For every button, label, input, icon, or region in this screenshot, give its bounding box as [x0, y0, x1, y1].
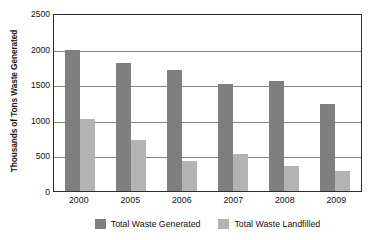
legend-swatch-icon: [95, 219, 106, 229]
bar-chart: Thousands of Tons Waste Generated 2500 2…: [0, 0, 378, 240]
bar-generated-2009: [320, 104, 335, 191]
legend-entry-generated: Total Waste Generated: [95, 219, 201, 229]
y-axis-tick-labels: 2500 2000 1500 1000 500 0: [17, 14, 50, 192]
bar-group-2009: [310, 15, 361, 191]
bar-landfilled-2009: [335, 171, 350, 191]
y-tick-label-2500: 2500: [17, 10, 50, 19]
bar-landfilled-2007: [233, 154, 248, 191]
y-tick-label-1000: 1000: [17, 116, 50, 125]
x-tick-label-2008: 2008: [259, 195, 311, 205]
x-tick-label-2007: 2007: [208, 195, 260, 205]
bar-generated-2000: [65, 50, 80, 191]
x-tick-label-2005: 2005: [105, 195, 157, 205]
x-tick-label-2000: 2000: [53, 195, 105, 205]
bar-landfilled-2005: [131, 140, 146, 191]
y-tick-label-1500: 1500: [17, 81, 50, 90]
bar-landfilled-2008: [284, 166, 299, 191]
bar-generated-2007: [218, 84, 233, 191]
legend-swatch-icon: [218, 219, 229, 229]
bar-group-2005: [105, 15, 156, 191]
bar-landfilled-2000: [80, 119, 95, 191]
legend-label-landfilled: Total Waste Landfilled: [234, 219, 320, 229]
bar-group-2000: [54, 15, 105, 191]
chart-legend: Total Waste Generated Total Waste Landfi…: [53, 219, 362, 229]
x-axis-tick-labels: 2000 2005 2006 2007 2008 2009: [53, 195, 362, 205]
legend-label-generated: Total Waste Generated: [111, 219, 201, 229]
bar-landfilled-2006: [182, 161, 197, 191]
y-tick-label-0: 0: [17, 188, 50, 197]
x-tick-label-2009: 2009: [311, 195, 363, 205]
bar-generated-2005: [116, 63, 131, 191]
bar-group-2008: [259, 15, 310, 191]
bar-group-2007: [208, 15, 259, 191]
bars-layer: [54, 15, 361, 191]
y-tick-label-2000: 2000: [17, 45, 50, 54]
x-tick-label-2006: 2006: [156, 195, 208, 205]
bar-generated-2008: [269, 81, 284, 191]
bar-group-2006: [156, 15, 207, 191]
bar-generated-2006: [167, 70, 182, 191]
legend-entry-landfilled: Total Waste Landfilled: [218, 219, 320, 229]
plot-area: [53, 14, 362, 192]
y-tick-label-500: 500: [17, 152, 50, 161]
